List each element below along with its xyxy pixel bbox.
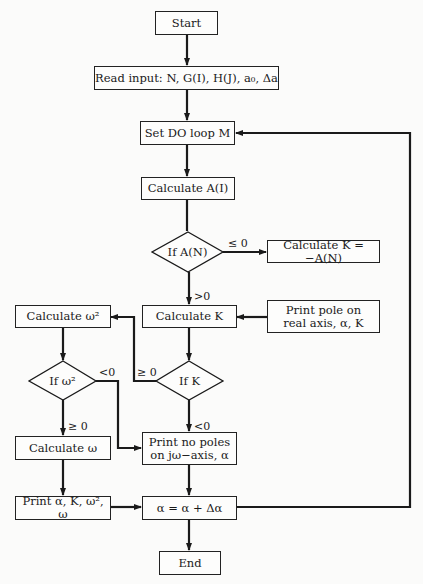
print-results-node: Print α, K, ω², ω (15, 496, 111, 520)
print-pole-label-1: Print pole on (286, 304, 361, 317)
print-no-poles-node: Print no poles on jω−axis, α (142, 432, 237, 465)
start-node: Start (155, 11, 218, 35)
if-w2-label: If ω² (29, 361, 96, 400)
read-input-node: Read input: N, G(I), H(J), a₀, Δa (94, 66, 279, 90)
edge-label-k-lt0: <0 (194, 420, 210, 433)
calculate-w2-node: Calculate ω² (15, 305, 111, 328)
edge-label-w2-ge0: ≥ 0 (68, 420, 88, 433)
print-pole-label-2: real axis, α, K (283, 317, 363, 330)
calculate-a-node: Calculate A(I) (141, 177, 235, 200)
print-no-poles-label-1: Print no poles (149, 436, 230, 449)
calculate-w2-label: Calculate ω² (27, 310, 100, 323)
edge-label-k-ge0: ≥ 0 (137, 366, 157, 379)
increment-node: α = α + Δα (142, 496, 237, 520)
calculate-k-neg-label: Calculate K = −A(N) (268, 239, 379, 265)
if-an-label: If A(N) (152, 232, 223, 272)
start-label: Start (172, 17, 201, 30)
if-k-label: If K (156, 361, 223, 400)
read-input-label: Read input: N, G(I), H(J), a₀, Δa (95, 72, 278, 85)
end-label: End (178, 557, 201, 570)
print-results-label: Print α, K, ω², ω (16, 495, 110, 521)
calculate-k-neg-node: Calculate K = −A(N) (267, 240, 380, 263)
calculate-w-label: Calculate ω (29, 442, 97, 455)
calculate-k-label: Calculate K (156, 310, 223, 323)
increment-label: α = α + Δα (157, 502, 223, 515)
set-do-loop-label: Set DO loop M (145, 127, 231, 140)
print-pole-node: Print pole on real axis, α, K (267, 300, 380, 333)
print-no-poles-label-2: on jω−axis, α (150, 449, 229, 462)
edge-label-an-gt0: >0 (194, 290, 210, 303)
calculate-w-node: Calculate ω (15, 436, 111, 460)
calculate-a-label: Calculate A(I) (148, 182, 229, 195)
calculate-k-node: Calculate K (142, 305, 237, 328)
set-do-loop-node: Set DO loop M (140, 121, 235, 145)
end-node: End (159, 551, 221, 575)
edge-label-an-le0: ≤ 0 (228, 237, 248, 250)
edge-label-w2-lt0: <0 (99, 366, 115, 379)
